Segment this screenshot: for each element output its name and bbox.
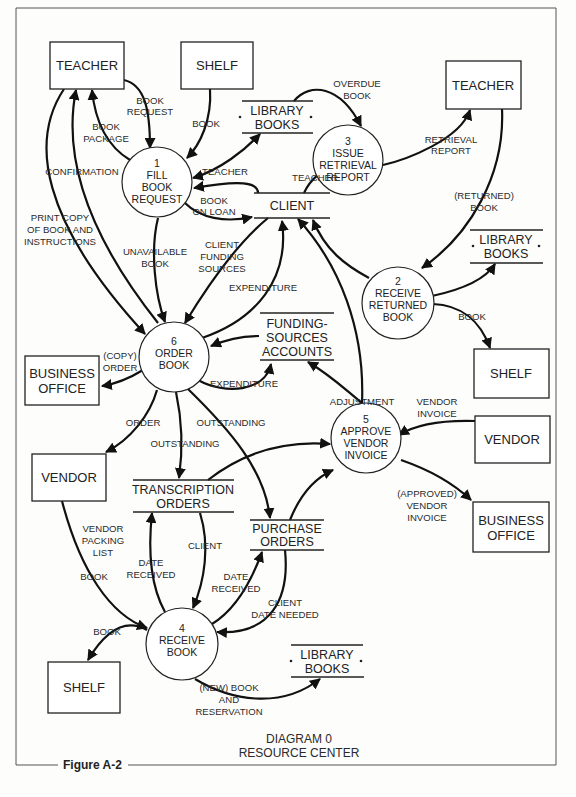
svg-text:BOOKS: BOOKS: [255, 118, 299, 132]
svg-text:LIST: LIST: [93, 547, 113, 558]
svg-text:TEACHER: TEACHER: [56, 58, 118, 73]
svg-text:BOOK: BOOK: [343, 90, 371, 101]
label-book-request: BOOK: [136, 95, 164, 106]
svg-text:RECEIVE: RECEIVE: [375, 287, 421, 299]
svg-text:OFFICE: OFFICE: [38, 381, 86, 396]
label-date-received-transcription: DATE: [139, 557, 164, 568]
svg-text:6: 6: [171, 335, 177, 347]
svg-text:RESERVATION: RESERVATION: [195, 706, 262, 717]
label-outstanding-transcription: OUTSTANDING: [150, 438, 219, 449]
label-client-date-needed: CLIENT: [268, 597, 302, 608]
svg-text:INVOICE: INVOICE: [344, 449, 387, 461]
store-client[interactable]: CLIENT: [254, 193, 330, 218]
label-order: ORDER: [126, 417, 161, 428]
svg-text:CLIENT: CLIENT: [270, 199, 315, 213]
svg-text:1: 1: [154, 157, 160, 169]
label-returned-book: (RETURNED): [454, 190, 514, 201]
diagram-title: DIAGRAM 0 RESOURCE CENTER: [239, 732, 360, 760]
process-6-order-book[interactable]: 6 ORDER BOOK: [139, 322, 209, 392]
process-5-approve-vendor-invoice[interactable]: 5 APPROVE VENDOR INVOICE: [331, 403, 401, 473]
svg-text:BOOK: BOOK: [141, 258, 169, 269]
svg-text:INVOICE: INVOICE: [407, 512, 446, 523]
svg-text:ORDERS: ORDERS: [156, 497, 209, 511]
label-date-received-purchase: DATE: [224, 571, 249, 582]
svg-text:SOURCES: SOURCES: [198, 263, 245, 274]
svg-text:REPORT: REPORT: [431, 145, 471, 156]
entity-shelf-bottom[interactable]: SHELF: [48, 662, 120, 713]
svg-text:VENDOR: VENDOR: [344, 437, 389, 449]
label-teacher-to-p3: TEACHER: [292, 172, 338, 183]
svg-text:LIBRARY: LIBRARY: [479, 233, 533, 247]
store-purchase-orders[interactable]: PURCHASE ORDERS: [250, 520, 324, 550]
svg-text:ACCOUNTS: ACCOUNTS: [262, 345, 332, 359]
svg-text:SOURCES: SOURCES: [266, 331, 328, 345]
svg-text:BOOK: BOOK: [383, 311, 413, 323]
svg-text:4: 4: [179, 622, 185, 634]
svg-text:RECEIVE: RECEIVE: [159, 634, 205, 646]
svg-text:DATE NEEDED: DATE NEEDED: [251, 609, 319, 620]
store-library-books-right[interactable]: LIBRARY BOOKS: [470, 230, 543, 263]
svg-text:OFFICE: OFFICE: [487, 528, 535, 543]
label-unavailable-book: UNAVAILABLE: [123, 246, 187, 257]
svg-text:RETRIEVAL: RETRIEVAL: [319, 159, 377, 171]
label-confirmation: CONFIRMATION: [45, 166, 118, 177]
svg-text:RECEIVED: RECEIVED: [211, 583, 260, 594]
entity-business-office-left[interactable]: BUSINESS OFFICE: [25, 356, 99, 405]
svg-text:2: 2: [395, 275, 401, 287]
svg-text:RETURNED: RETURNED: [369, 299, 428, 311]
svg-text:BOOK: BOOK: [159, 359, 189, 371]
svg-text:REQUEST: REQUEST: [127, 106, 174, 117]
label-client-funding-sources: CLIENT: [205, 239, 239, 250]
entity-business-office-right[interactable]: BUSINESS OFFICE: [473, 502, 549, 552]
label-print-copy: PRINT COPY: [31, 212, 90, 223]
label-copy-order: (COPY): [103, 350, 137, 361]
svg-text:ON LOAN: ON LOAN: [192, 206, 235, 217]
svg-text:BOOK: BOOK: [167, 646, 197, 658]
label-book-package: BOOK: [92, 121, 120, 132]
process-3-issue-retrieval-report[interactable]: 3 ISSUE RETRIEVAL REPORT: [313, 125, 383, 195]
process-4-receive-book[interactable]: 4 RECEIVE BOOK: [146, 608, 218, 680]
svg-text:LIBRARY: LIBRARY: [250, 104, 304, 118]
svg-text:RECEIVED: RECEIVED: [126, 569, 175, 580]
store-transcription-orders[interactable]: TRANSCRIPTION ORDERS: [132, 480, 234, 512]
entity-shelf-top[interactable]: SHELF: [181, 42, 253, 89]
svg-text:VENDOR: VENDOR: [41, 470, 97, 485]
svg-text:ORDERS: ORDERS: [260, 535, 313, 549]
entity-vendor-left[interactable]: VENDOR: [32, 454, 106, 501]
entity-vendor-right[interactable]: VENDOR: [475, 416, 550, 463]
entity-shelf-right[interactable]: SHELF: [474, 349, 549, 398]
svg-text:TRANSCRIPTION: TRANSCRIPTION: [132, 483, 234, 497]
svg-text:RESOURCE CENTER: RESOURCE CENTER: [239, 746, 360, 760]
label-vendor-packing-list: VENDOR: [82, 523, 123, 534]
store-library-books-bottom[interactable]: LIBRARY BOOKS: [290, 645, 364, 677]
svg-text:BOOK: BOOK: [142, 181, 172, 193]
label-new-book-reservation: (NEW) BOOK: [199, 682, 259, 693]
svg-text:5: 5: [363, 413, 369, 425]
label-book-to-shelf: BOOK: [458, 311, 486, 322]
svg-text:TEACHER: TEACHER: [452, 78, 514, 93]
svg-text:FUNDING-: FUNDING-: [266, 317, 327, 331]
svg-text:ISSUE: ISSUE: [332, 147, 364, 159]
label-book-vendor: BOOK: [80, 571, 108, 582]
svg-text:ORDER: ORDER: [103, 362, 138, 373]
label-outstanding-purchase: OUTSTANDING: [196, 417, 265, 428]
label-expenditure-client: EXPENDITURE: [229, 282, 297, 293]
svg-text:BOOK: BOOK: [470, 202, 498, 213]
entity-teacher-top-right[interactable]: TEACHER: [446, 61, 521, 109]
process-2-receive-returned-book[interactable]: 2 RECEIVE RETURNED BOOK: [362, 267, 434, 339]
label-book-on-loan: BOOK: [200, 195, 228, 206]
label-approved-vendor-invoice: (APPROVED): [397, 488, 457, 499]
svg-text:ORDER: ORDER: [155, 347, 193, 359]
label-book-shelf: BOOK: [192, 118, 220, 129]
store-library-books-top[interactable]: LIBRARY BOOKS: [239, 101, 313, 133]
label-client-transcription: CLIENT: [188, 540, 222, 551]
svg-text:FUNDING: FUNDING: [200, 251, 244, 262]
svg-text:PACKING: PACKING: [82, 535, 124, 546]
process-1-fill-book-request[interactable]: 1 FILL BOOK REQUEST: [122, 147, 192, 217]
svg-text:3: 3: [345, 135, 351, 147]
label-book-to-shelf-bottom: BOOK: [93, 626, 121, 637]
store-funding-sources-accounts[interactable]: FUNDING- SOURCES ACCOUNTS: [260, 313, 334, 360]
entity-teacher-top-left[interactable]: TEACHER: [50, 42, 124, 89]
svg-text:AND: AND: [219, 694, 239, 705]
svg-text:BUSINESS: BUSINESS: [478, 513, 544, 528]
